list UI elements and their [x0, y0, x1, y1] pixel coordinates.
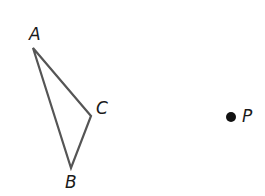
- point-p-dot: [226, 112, 236, 122]
- vertex-label-a: A: [29, 26, 41, 43]
- vertex-label-c: C: [96, 100, 108, 117]
- point-label-p: P: [242, 108, 252, 125]
- triangle-abc: [33, 48, 91, 168]
- vertex-label-b: B: [65, 174, 77, 191]
